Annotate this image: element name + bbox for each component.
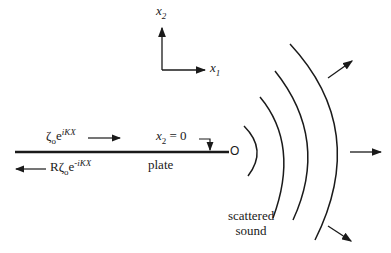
axis-x1-label: x1 <box>210 60 220 78</box>
plate-label: plate <box>148 157 173 173</box>
incident-wave-label: ζoeiKX <box>46 127 76 146</box>
surface-pointer-icon <box>199 139 210 150</box>
surface-label: x2 = 0 <box>156 128 187 146</box>
origin-label: O <box>230 144 239 158</box>
reflected-wave-label: Rζoe-iKX <box>50 158 91 177</box>
scattered-sound-label: scatteredsound <box>228 208 274 238</box>
propagation-arrows-icon <box>328 61 381 241</box>
axis-x2-label: x2 <box>156 3 166 21</box>
axes-icon <box>162 28 205 70</box>
